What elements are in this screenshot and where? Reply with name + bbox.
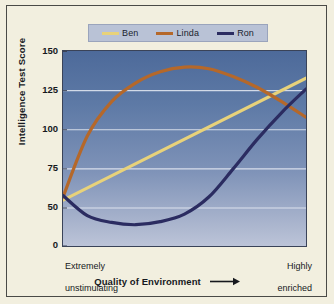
y-tick-label: 50 bbox=[24, 201, 58, 212]
plot-area bbox=[62, 50, 307, 247]
x-axis-label-right-line1: Highly bbox=[277, 261, 312, 272]
legend-swatch-ron bbox=[217, 32, 234, 35]
legend-item-ron[interactable]: Ron bbox=[217, 28, 254, 38]
right-arrow-icon bbox=[210, 277, 240, 288]
x-axis-title-text: Quality of Environment bbox=[94, 276, 201, 287]
series-line-ben bbox=[63, 78, 306, 200]
legend-item-ben[interactable]: Ben bbox=[102, 28, 138, 38]
chart-plot-svg bbox=[63, 51, 306, 246]
y-tick-label: 0 bbox=[24, 239, 58, 250]
y-axis-ticks: 05075100125150 bbox=[20, 0, 58, 304]
series-line-ron bbox=[63, 89, 306, 225]
y-tick-label: 100 bbox=[24, 123, 58, 134]
x-axis-title: Quality of Environment bbox=[0, 276, 334, 288]
legend-item-linda[interactable]: Linda bbox=[156, 28, 199, 38]
legend-label-ben: Ben bbox=[122, 28, 138, 38]
legend-swatch-linda bbox=[156, 32, 173, 35]
x-axis-label-left-line1: Extremely bbox=[65, 261, 118, 272]
chart-legend: Ben Linda Ron bbox=[88, 24, 268, 42]
legend-swatch-ben bbox=[102, 32, 119, 35]
y-tick-label: 125 bbox=[24, 84, 58, 95]
series-line-linda bbox=[63, 67, 306, 197]
chart-canvas: Ben Linda Ron Intelligence Test Score 05… bbox=[0, 0, 334, 304]
y-tick-label: 75 bbox=[24, 162, 58, 173]
legend-label-linda: Linda bbox=[176, 28, 199, 38]
legend-label-ron: Ron bbox=[237, 28, 254, 38]
y-tick-label: 150 bbox=[24, 45, 58, 56]
